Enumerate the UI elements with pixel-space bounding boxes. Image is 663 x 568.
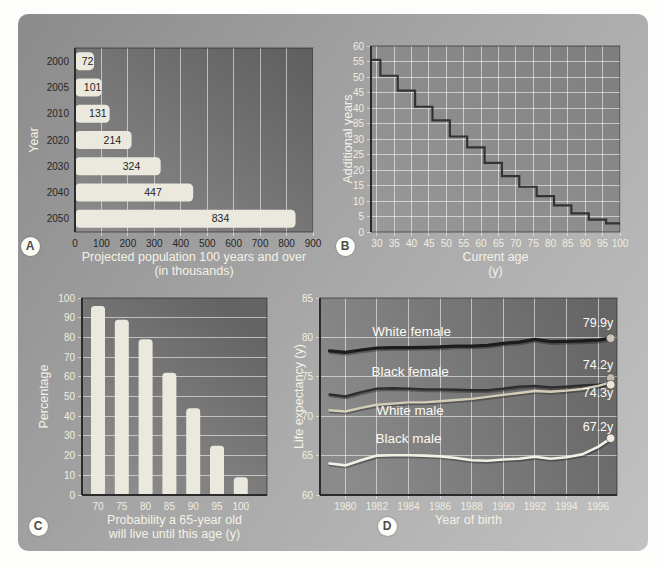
y-tick-label: 55	[353, 56, 365, 67]
x-tick-label: 1990	[492, 501, 515, 512]
y-tick-label: 10	[64, 470, 76, 481]
x-tick-label: 700	[252, 238, 269, 249]
x-tick-label: 80	[140, 501, 152, 512]
y-tick-label: 50	[64, 391, 76, 402]
x-tick-label: 200	[120, 238, 137, 249]
y-tick-label: 30	[64, 430, 76, 441]
x-tick-label: 1996	[587, 501, 610, 512]
bar-age-95	[210, 446, 224, 496]
x-tick-label: 1988	[461, 501, 484, 512]
y-tick-label: 50	[353, 72, 365, 83]
x-tick-label: 75	[116, 501, 128, 512]
panel-c-badge: C	[29, 517, 48, 536]
x-axis-title: Year of birth	[435, 513, 502, 527]
y-tick-label: 60	[353, 41, 365, 52]
panel-d-badge: D	[378, 517, 397, 536]
y-tick-label: 5	[358, 211, 364, 222]
y-tick-label: 10	[353, 196, 365, 207]
bar-year-2030	[75, 157, 161, 175]
series-end-value-label: 79.9y	[583, 316, 614, 330]
x-tick-label: 70	[92, 501, 104, 512]
y-tick-label: 20	[64, 450, 76, 461]
x-tick-label: 60	[476, 238, 488, 249]
category-label: 2005	[47, 82, 70, 93]
x-axis-title: Projected population 100 years and over	[82, 250, 306, 264]
x-tick-label: 900	[305, 238, 322, 249]
y-tick-label: 80	[302, 332, 314, 343]
category-label: 2050	[47, 213, 70, 224]
x-tick-label: 400	[172, 238, 189, 249]
x-tick-label: 40	[406, 238, 418, 249]
y-tick-label: 60	[302, 490, 314, 501]
x-axis-title: (in thousands)	[154, 264, 233, 278]
x-tick-label: 1992	[524, 501, 547, 512]
x-tick-label: 35	[389, 238, 401, 249]
series-end-marker	[606, 434, 615, 443]
bar-age-80	[139, 339, 153, 496]
series-end-value-label: 67.2y	[583, 420, 614, 434]
x-tick-label: 85	[164, 501, 176, 512]
x-tick-label: 1980	[334, 501, 357, 512]
panel-a-badge: A	[21, 237, 40, 256]
chart-projected-population: 7220001012005131201021420203242030447204…	[27, 48, 322, 278]
x-tick-label: 30	[371, 238, 383, 249]
x-tick-label: 0	[72, 238, 78, 249]
y-axis-title: Additional years	[341, 95, 355, 184]
series-label: Black male	[375, 431, 441, 446]
x-tick-label: 100	[232, 501, 249, 512]
x-tick-label: 95	[597, 238, 609, 249]
bar-age-90	[186, 408, 200, 496]
x-tick-label: 50	[441, 238, 453, 249]
charts-canvas: 7220001012005131201021420203242030447204…	[0, 0, 663, 568]
bar-value-label: 324	[123, 160, 141, 172]
x-tick-label: 85	[562, 238, 574, 249]
category-label: 2010	[47, 108, 70, 119]
x-axis-title: Current age	[462, 250, 528, 264]
bar-age-85	[162, 373, 176, 496]
bar-value-label: 131	[89, 107, 107, 119]
x-tick-label: 45	[423, 238, 435, 249]
bar-value-label: 72	[82, 55, 94, 67]
x-tick-label: 100	[612, 238, 629, 249]
series-end-value-label: 74.3y	[583, 386, 614, 400]
x-tick-label: 1984	[397, 501, 420, 512]
bar-value-label: 834	[212, 212, 230, 224]
x-tick-label: 800	[278, 238, 295, 249]
bar-value-label: 447	[144, 186, 162, 198]
x-tick-label: 500	[199, 238, 216, 249]
bar-age-70	[91, 306, 105, 496]
x-tick-label: 90	[188, 501, 200, 512]
x-tick-label: 65	[493, 238, 505, 249]
bar-year-2040	[75, 184, 193, 202]
category-label: 2040	[47, 187, 70, 198]
y-tick-label: 40	[64, 411, 76, 422]
x-axis-title: (y)	[488, 264, 503, 278]
y-tick-label: 70	[64, 352, 76, 363]
bar-value-label: 214	[104, 134, 122, 146]
series-end-value-label: 74.2y	[583, 358, 614, 372]
x-tick-label: 1982	[366, 501, 389, 512]
bar-age-75	[115, 320, 129, 496]
x-tick-label: 75	[528, 238, 540, 249]
x-tick-label: 1994	[555, 501, 578, 512]
x-tick-label: 80	[545, 238, 557, 249]
series-label: White female	[372, 324, 451, 339]
category-label: 2000	[47, 56, 70, 67]
panel-b-badge: B	[336, 237, 355, 256]
y-axis-title: Percentage	[37, 364, 51, 428]
y-tick-label: 65	[302, 450, 314, 461]
y-tick-label: 85	[302, 293, 314, 304]
x-tick-label: 1986	[429, 501, 452, 512]
category-label: 2030	[47, 161, 70, 172]
bar-age-100	[234, 477, 248, 496]
x-axis-title: will live until this age (y)	[108, 527, 240, 541]
y-tick-label: 90	[64, 312, 76, 323]
x-tick-label: 100	[93, 238, 110, 249]
series-label: Black female	[371, 364, 448, 379]
x-axis-title: Probability a 65-year old	[107, 513, 242, 527]
x-tick-label: 600	[225, 238, 242, 249]
bar-year-2050	[75, 210, 296, 228]
x-tick-label: 55	[458, 238, 470, 249]
y-axis-title: Year	[27, 127, 41, 152]
chart-additional-years: 0510152025303540455055603035404550556065…	[341, 41, 629, 279]
